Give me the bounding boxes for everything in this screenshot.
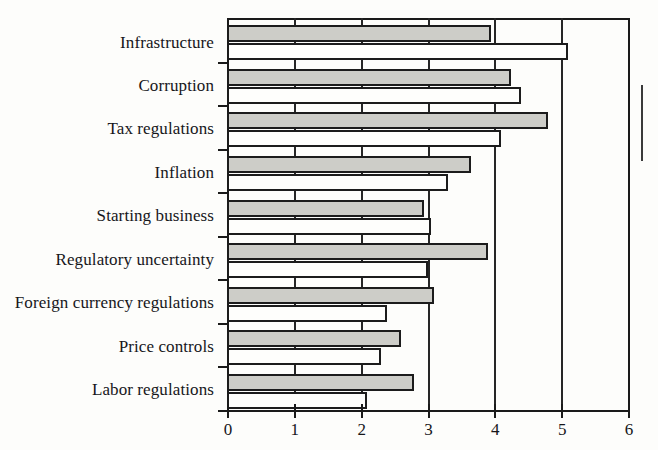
bar-series-b-8 [227,392,367,409]
x-axis-tick-label-1: 1 [291,421,300,438]
category-axis-tick-5 [218,279,229,281]
category-axis-tick-3 [218,192,229,194]
bar-series-a-7 [227,330,401,347]
bar-series-b-6 [227,305,387,322]
bar-series-b-7 [227,348,381,365]
x-axis-tick-label-6: 6 [625,421,634,438]
bar-series-b-3 [227,174,448,191]
bar-series-b-0 [227,43,568,60]
bar-series-a-5 [227,243,488,260]
bar-series-a-3 [227,156,471,173]
plot-area [227,18,630,410]
category-label-price-controls: Price controls [119,338,214,355]
x-axis-tick-4 [494,404,496,418]
bar-series-a-0 [227,25,491,42]
bar-series-b-4 [227,218,431,235]
category-label-corruption: Corruption [138,77,214,94]
category-label-infrastructure: Infrastructure [120,34,214,51]
bar-chart: Infrastructure Corruption Tax regulation… [0,0,658,450]
x-axis-tick-3 [428,404,430,418]
x-axis-tick-1 [294,404,296,418]
x-axis-tick-label-2: 2 [357,421,366,438]
bar-series-a-4 [227,200,424,217]
category-axis-tick-7 [218,366,229,368]
x-axis-tick-label-4: 4 [491,421,500,438]
gridline-5 [561,18,563,410]
bar-series-a-2 [227,112,548,129]
category-axis-tick-4 [218,236,229,238]
bar-series-b-2 [227,130,501,147]
scan-artifact-line [641,85,643,161]
x-axis-tick-label-3: 3 [424,421,433,438]
category-axis-tick-0 [218,62,229,64]
x-axis-tick-0 [227,404,229,418]
category-axis-labels: Infrastructure Corruption Tax regulation… [0,0,222,450]
category-label-regulatory-uncertainty: Regulatory uncertainty [56,251,214,268]
category-label-labor-regulations: Labor regulations [92,381,214,398]
category-label-starting-business: Starting business [97,207,214,224]
bar-series-a-1 [227,69,511,86]
x-axis-tick-6 [628,404,630,418]
category-axis-tick-1 [218,105,229,107]
x-axis-tick-label-0: 0 [224,421,233,438]
plot-border-right [628,18,630,410]
category-axis-tick-2 [218,149,229,151]
category-label-foreign-currency-regulations: Foreign currency regulations [15,294,214,311]
x-axis-tick-5 [561,404,563,418]
bar-series-b-5 [227,261,428,278]
bar-series-a-6 [227,287,434,304]
category-axis-tick-6 [218,323,229,325]
category-label-inflation: Inflation [155,164,214,181]
x-axis-tick-label-5: 5 [558,421,567,438]
bar-series-a-8 [227,374,414,391]
bar-series-b-1 [227,87,521,104]
category-label-tax-regulations: Tax regulations [107,120,214,137]
x-axis-tick-2 [361,404,363,418]
